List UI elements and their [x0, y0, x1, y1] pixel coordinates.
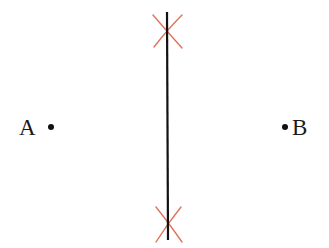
point-a-label: A	[19, 115, 36, 140]
point-b-label: B	[292, 115, 307, 140]
bisector-diagram: A B	[0, 0, 329, 248]
bisector-line	[167, 12, 168, 240]
point-a-dot	[48, 124, 54, 130]
point-b-dot	[282, 124, 288, 130]
